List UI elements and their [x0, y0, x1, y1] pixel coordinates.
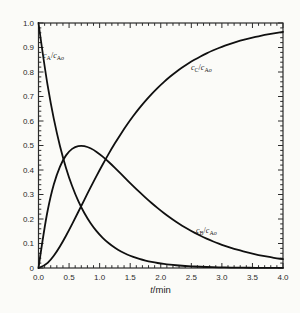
- curve-ca: [39, 23, 284, 268]
- subscript-text: C: [195, 67, 199, 73]
- x-tick-label: 3.5: [247, 273, 259, 282]
- curve-label-cc: cC/cAo: [191, 63, 212, 73]
- y-tick-label: 0.2: [23, 215, 35, 224]
- x-axis-unit: /min: [153, 284, 171, 295]
- y-tick-label: 0.5: [23, 141, 35, 150]
- subscript-text: B: [200, 230, 204, 236]
- y-tick-label: 0.7: [23, 92, 35, 101]
- y-tick-label: 0.6: [23, 117, 35, 126]
- curve-label-ca: cA/cAo: [43, 51, 64, 61]
- x-tick-label: 1.5: [125, 273, 137, 282]
- subscript-o: o: [209, 67, 212, 73]
- y-tick-label: 0.9: [23, 43, 35, 52]
- y-tick-label: 1.0: [23, 19, 35, 28]
- x-tick-label: 3.0: [216, 273, 228, 282]
- subscript: Ao: [204, 67, 211, 73]
- subscript: Ao: [57, 55, 64, 61]
- subscript: Ao: [209, 230, 216, 236]
- subscript: A: [47, 55, 51, 61]
- x-tick-label: 2.0: [155, 273, 167, 282]
- x-tick-label: 0.5: [64, 273, 76, 282]
- y-tick-label: 0.1: [23, 239, 35, 248]
- subscript-o: o: [61, 55, 64, 61]
- x-tick-label: 2.5: [186, 273, 198, 282]
- kinetics-plot: 0.00.51.01.52.02.53.03.54.01.00.90.80.70…: [0, 0, 300, 313]
- curve-cb: [39, 146, 284, 268]
- x-tick-label: 0.0: [33, 273, 45, 282]
- y-tick-label: 0.8: [23, 68, 35, 77]
- kinetics-figure: 0.00.51.01.52.02.53.03.54.01.00.90.80.70…: [0, 0, 300, 313]
- subscript: C: [195, 67, 199, 73]
- y-tick-label: 0.3: [23, 190, 35, 199]
- plot-frame: [39, 23, 284, 268]
- subscript-o: o: [214, 230, 217, 236]
- y-tick-label: 0.4: [23, 166, 35, 175]
- curve-label-cb: cB/cAo: [196, 226, 217, 236]
- subscript: B: [200, 230, 204, 236]
- subscript-text: A: [47, 55, 51, 61]
- x-tick-label: 1.0: [94, 273, 106, 282]
- x-tick-label: 4.0: [277, 273, 289, 282]
- x-axis-label: t/min: [38, 284, 283, 295]
- curve-cc: [39, 32, 284, 268]
- y-tick-label: 0: [30, 264, 35, 273]
